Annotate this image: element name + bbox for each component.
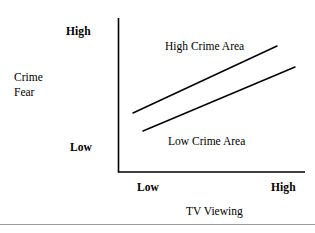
series-line-low-crime-area — [143, 67, 295, 131]
bottom-divider — [0, 224, 315, 225]
figure-container: Crime Fear High Low High Crime Area Low … — [0, 0, 315, 233]
series-line-high-crime-area — [133, 46, 277, 113]
x-axis-title: TV Viewing — [186, 204, 243, 218]
series-label-low-crime-area: Low Crime Area — [168, 135, 245, 148]
x-axis-tick-label-low: Low — [137, 181, 159, 194]
plot-area — [0, 0, 315, 233]
series-label-high-crime-area: High Crime Area — [165, 40, 244, 53]
x-axis-tick-label-high: High — [271, 181, 296, 194]
